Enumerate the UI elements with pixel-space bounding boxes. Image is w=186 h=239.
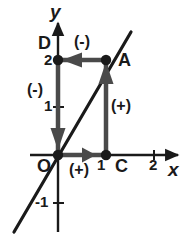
sign-label-a-to-d: (-) bbox=[74, 34, 90, 50]
y-tick-label-1: 1 bbox=[44, 98, 52, 113]
sign-label-c-to-a: (+) bbox=[111, 98, 131, 114]
point-a bbox=[101, 55, 111, 65]
y-tick-label-2: 2 bbox=[44, 52, 52, 67]
point-label-d: D bbox=[38, 34, 51, 52]
point-o bbox=[53, 150, 63, 160]
diagram-canvas bbox=[0, 0, 186, 239]
sign-label-d-to-o: (-) bbox=[27, 82, 43, 98]
y-tick-label-minus-1: -1 bbox=[35, 194, 48, 209]
point-label-c: C bbox=[115, 157, 128, 175]
y-axis-label: y bbox=[50, 2, 61, 21]
arrowhead-a-to-d bbox=[62, 53, 82, 68]
point-d bbox=[53, 55, 63, 65]
coordinate-diagram: y x D A C O 2 1 -1 1 2 (-) (-) (+) (+) bbox=[0, 0, 186, 239]
x-tick-label-1: 1 bbox=[97, 157, 105, 172]
x-axis-label: x bbox=[168, 160, 179, 179]
point-label-a: A bbox=[118, 51, 131, 69]
point-label-o: O bbox=[37, 157, 51, 175]
x-tick-label-2: 2 bbox=[149, 157, 157, 172]
sign-label-o-to-c: (+) bbox=[69, 162, 89, 178]
